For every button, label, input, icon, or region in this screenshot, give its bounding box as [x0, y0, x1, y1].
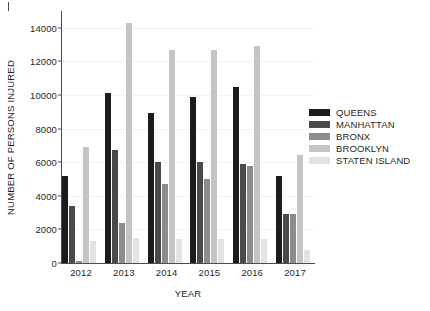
bar-group-2015: [190, 11, 228, 263]
bar-bronx-2013: [119, 223, 125, 263]
legend-label: QUEENS: [336, 107, 377, 118]
bar-queens-2013: [105, 93, 111, 263]
legend-swatch-queens: [309, 109, 330, 116]
y-tick-label: 10000: [30, 90, 62, 101]
bar-staten-island-2017: [304, 250, 310, 263]
y-axis-title: NUMBER OF PERSONS INJURED: [3, 11, 17, 263]
legend-item-staten-island: STATEN ISLAND: [309, 154, 410, 166]
bar-staten-island-2014: [176, 239, 182, 263]
legend-item-manhattan: MANHATTAN: [309, 118, 410, 130]
bar-brooklyn-2015: [211, 50, 217, 263]
bar-staten-island-2012: [90, 241, 96, 263]
x-tick-label-2016: 2016: [241, 267, 263, 278]
bar-chart: NUMBER OF PERSONS INJURED 02000400060008…: [0, 0, 430, 311]
bar-bronx-2016: [247, 166, 253, 263]
y-axis-title-label: NUMBER OF PERSONS INJURED: [5, 60, 16, 215]
bar-group-2012: [62, 11, 100, 263]
bar-manhattan-2012: [69, 206, 75, 263]
bar-queens-2017: [276, 176, 282, 263]
x-tick-label-2013: 2013: [113, 267, 135, 278]
y-tick-label: 4000: [35, 190, 62, 201]
bar-bronx-2015: [204, 179, 210, 263]
x-tick-label-2012: 2012: [70, 267, 92, 278]
legend: QUEENSMANHATTANBRONXBROOKLYNSTATEN ISLAN…: [309, 106, 410, 166]
legend-swatch-bronx: [309, 133, 330, 140]
bar-bronx-2014: [162, 184, 168, 263]
bar-manhattan-2014: [155, 162, 161, 263]
corner-tick-mark: [8, 2, 9, 11]
legend-swatch-manhattan: [309, 121, 330, 128]
legend-label: MANHATTAN: [336, 119, 395, 130]
y-tick-label: 14000: [30, 22, 62, 33]
bar-brooklyn-2012: [83, 147, 89, 263]
x-tick-label-2014: 2014: [156, 267, 178, 278]
bar-brooklyn-2016: [254, 46, 260, 263]
bar-group-2013: [105, 11, 143, 263]
bar-brooklyn-2017: [297, 155, 303, 263]
bars-layer: [62, 11, 314, 263]
y-tick-label: 12000: [30, 56, 62, 67]
legend-item-queens: QUEENS: [309, 106, 410, 118]
bar-group-2016: [233, 11, 271, 263]
bar-manhattan-2017: [283, 214, 289, 263]
bar-manhattan-2013: [112, 150, 118, 263]
bar-manhattan-2016: [240, 164, 246, 263]
legend-swatch-brooklyn: [309, 145, 330, 152]
x-axis-line: [61, 263, 315, 264]
x-tick-label-2015: 2015: [199, 267, 221, 278]
x-axis-title: YEAR: [62, 288, 314, 299]
bar-staten-island-2013: [133, 238, 139, 263]
legend-label: STATEN ISLAND: [336, 155, 410, 166]
bar-manhattan-2015: [197, 162, 203, 263]
bar-queens-2012: [62, 176, 68, 263]
plot-area: 02000400060008000100001200014000: [62, 11, 314, 263]
bar-queens-2014: [148, 113, 154, 263]
y-axis-line: [61, 11, 62, 264]
bar-group-2014: [148, 11, 186, 263]
bar-brooklyn-2013: [126, 23, 132, 263]
bar-queens-2015: [190, 97, 196, 263]
x-tick-label-2017: 2017: [284, 267, 306, 278]
bar-staten-island-2016: [261, 239, 267, 263]
bar-staten-island-2015: [218, 239, 224, 263]
bar-queens-2016: [233, 87, 239, 263]
legend-item-brooklyn: BROOKLYN: [309, 142, 410, 154]
y-tick-label: 6000: [35, 157, 62, 168]
legend-label: BROOKLYN: [336, 143, 389, 154]
y-tick-label: 2000: [35, 224, 62, 235]
y-tick-label: 8000: [35, 123, 62, 134]
legend-item-bronx: BRONX: [309, 130, 410, 142]
bar-brooklyn-2014: [169, 50, 175, 263]
legend-swatch-staten-island: [309, 157, 330, 164]
bar-bronx-2017: [290, 214, 296, 263]
legend-label: BRONX: [336, 131, 370, 142]
